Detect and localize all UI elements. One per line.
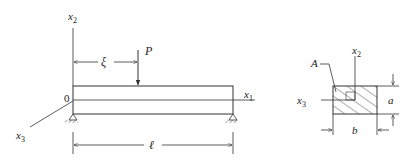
origin-label: 0: [64, 92, 70, 104]
xi-label: ξ: [101, 55, 107, 69]
height-label: a: [388, 94, 394, 106]
section-x2-label: x2: [351, 44, 361, 59]
right-support: [225, 114, 238, 123]
beam-diagram: x1 x2 x3 0 P ξ ℓ x2 x3 A: [0, 0, 409, 164]
width-label: b: [352, 124, 358, 136]
length-label: ℓ: [149, 138, 154, 152]
x2-label: x2: [67, 10, 77, 25]
area-label: A: [310, 57, 318, 69]
section-x3-label: x3: [296, 94, 306, 109]
cross-section: x2 x3 A a b: [296, 44, 399, 136]
x3-axis: [30, 101, 73, 127]
load-label: P: [144, 44, 153, 58]
left-support: [65, 114, 78, 123]
x1-label: x1: [243, 88, 253, 103]
x3-label: x3: [15, 129, 25, 144]
